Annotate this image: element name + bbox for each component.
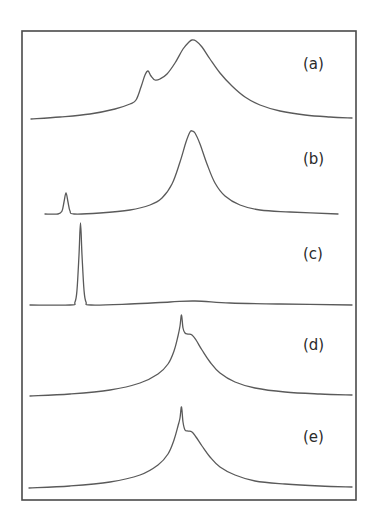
spectrum-trace-a <box>31 40 352 119</box>
spectrum-trace-c <box>30 223 352 305</box>
panel-label-a: (a) <box>303 55 324 73</box>
panel-labels: (a) (b) (c) (d) (e) <box>303 55 324 446</box>
spectrum-trace-d <box>30 315 352 396</box>
spectrum-trace-b <box>45 131 338 215</box>
spectra-figure: (a) (b) (c) (d) (e) <box>0 0 376 529</box>
panel-label-d: (d) <box>303 336 324 354</box>
panel-label-e: (e) <box>303 428 324 446</box>
spectra-traces <box>29 40 352 488</box>
spectrum-trace-e <box>29 407 352 488</box>
panel-label-b: (b) <box>303 150 324 168</box>
panel-label-c: (c) <box>303 245 323 263</box>
